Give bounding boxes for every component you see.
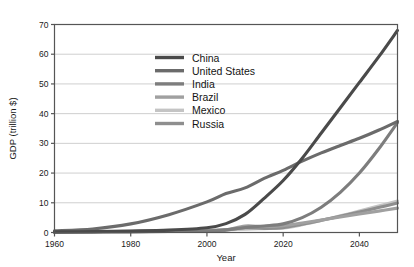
x-axis-title: Year bbox=[216, 252, 235, 263]
y-tick-label: 0 bbox=[44, 228, 49, 238]
y-tick-label: 10 bbox=[39, 198, 49, 208]
chart-legend: ChinaUnited StatesIndiaBrazilMexicoRussi… bbox=[155, 52, 255, 130]
chart-canvas: 19601980200020202040 010203040506070 Yea… bbox=[0, 0, 414, 267]
legend-label-china: China bbox=[192, 52, 220, 64]
y-tick-label: 20 bbox=[39, 168, 49, 178]
grid-lines bbox=[55, 25, 398, 203]
data-series-layer bbox=[55, 30, 398, 232]
plot-border bbox=[55, 25, 398, 233]
gdp-line-chart: 19601980200020202040 010203040506070 Yea… bbox=[0, 0, 414, 267]
x-tick-label: 2040 bbox=[350, 239, 369, 249]
series-line-china bbox=[55, 30, 398, 231]
x-tick-label: 2000 bbox=[197, 239, 216, 249]
legend-label-brazil: Brazil bbox=[192, 91, 218, 103]
x-tick-label: 1980 bbox=[121, 239, 140, 249]
y-tick-label: 40 bbox=[39, 109, 49, 119]
plot-frame bbox=[55, 25, 398, 233]
y-tick-label: 30 bbox=[39, 138, 49, 148]
legend-label-united-states: United States bbox=[192, 65, 255, 77]
x-tick-label: 2020 bbox=[274, 239, 293, 249]
legend-label-india: India bbox=[192, 78, 215, 90]
y-axis-title: GDP (trillion $) bbox=[7, 97, 18, 159]
x-axis-ticks: 19601980200020202040 bbox=[45, 233, 369, 249]
y-axis-ticks: 010203040506070 bbox=[39, 20, 54, 238]
y-tick-label: 50 bbox=[39, 79, 49, 89]
x-tick-label: 1960 bbox=[45, 239, 64, 249]
legend-label-russia: Russia bbox=[192, 118, 224, 130]
legend-label-mexico: Mexico bbox=[192, 104, 225, 116]
y-tick-label: 70 bbox=[39, 20, 49, 30]
y-tick-label: 60 bbox=[39, 49, 49, 59]
